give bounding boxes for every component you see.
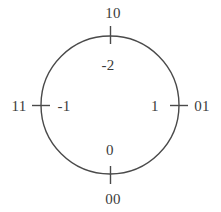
label-bottom-outer: 00 bbox=[105, 192, 121, 207]
label-top-outer: 10 bbox=[105, 6, 121, 21]
label-top-inner: -2 bbox=[101, 58, 114, 73]
label-right-outer: 01 bbox=[194, 99, 210, 114]
label-left-inner: -1 bbox=[57, 99, 70, 114]
label-bottom-inner: 0 bbox=[106, 143, 114, 158]
state-circle-diagram: 10 -2 11 -1 1 01 0 00 bbox=[0, 0, 221, 212]
label-left-outer: 11 bbox=[11, 99, 26, 114]
label-right-inner: 1 bbox=[151, 99, 159, 114]
circle-graphic bbox=[0, 0, 221, 212]
